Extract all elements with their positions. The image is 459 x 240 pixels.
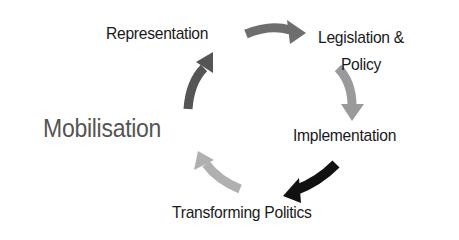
stage-label-legislation-line2: Policy [318,51,404,78]
stage-label-representation: Representation [106,24,208,44]
stage-label-transforming-politics: Transforming Politics [172,203,312,223]
center-label-mobilisation: Mobilisation [43,114,161,143]
stage-label-legislation-policy: Legislation & Policy [318,24,404,78]
arrow-implementation-to-transforming [283,164,336,203]
arrow-transforming-to-mobilisation [194,151,240,189]
arrow-representation-to-legislation [246,20,306,44]
stage-label-legislation-line1: Legislation & [318,24,404,51]
cycle-diagram: Representation Legislation & Policy Impl… [0,0,459,240]
stage-label-implementation: Implementation [293,126,396,146]
arrow-mobilisation-to-representation [188,52,213,109]
